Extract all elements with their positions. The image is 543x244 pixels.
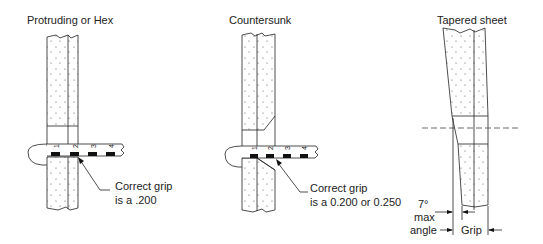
gauge-mark-4: 4 — [108, 144, 115, 148]
leader-arrow — [276, 159, 308, 192]
lower-tapered-sheets — [458, 144, 488, 207]
note-line-2: is a .200 — [115, 194, 157, 206]
note-line-1: Correct grip — [310, 182, 367, 194]
grip-label: Grip — [461, 224, 482, 236]
note-line-1: Correct grip — [115, 180, 172, 192]
gauge-mark-3: 3 — [90, 144, 97, 148]
gauge-mark-2: 2 — [267, 146, 274, 150]
angle-label-3: angle — [410, 224, 437, 236]
gauge-mark-1: 1 — [53, 144, 60, 148]
title-tapered-sheet: Tapered sheet — [437, 14, 507, 26]
gauge-mark-2: 2 — [72, 144, 79, 148]
gauge-mark-1: 1 — [251, 146, 258, 150]
upper-sheets — [47, 35, 78, 146]
title-protruding-hex: Protruding or Hex — [27, 14, 114, 26]
angle-label-1: 7° — [418, 198, 429, 210]
panel-tapered-sheet: Tapered sheet 7° max angle Grip — [410, 14, 520, 236]
gauge-mark-3: 3 — [284, 146, 291, 150]
grip-gauge: 1 2 3 4 — [225, 146, 318, 167]
lower-sheets — [47, 157, 78, 210]
note-line-2: is a 0.200 or 0.250 — [310, 196, 401, 208]
fastener-grip-diagram: Protruding or Hex 1 2 3 4 — [0, 0, 543, 244]
panel-protruding-hex: Protruding or Hex 1 2 3 4 — [27, 14, 172, 210]
lower-sheets — [242, 158, 275, 212]
upper-sheets — [242, 33, 275, 146]
angle-label-2: max — [414, 211, 435, 223]
leader-arrow — [78, 157, 110, 190]
gauge-mark-4: 4 — [301, 146, 308, 150]
title-countersunk: Countersunk — [229, 14, 292, 26]
panel-countersunk: Countersunk 1 2 3 4 Correct — [225, 14, 401, 212]
